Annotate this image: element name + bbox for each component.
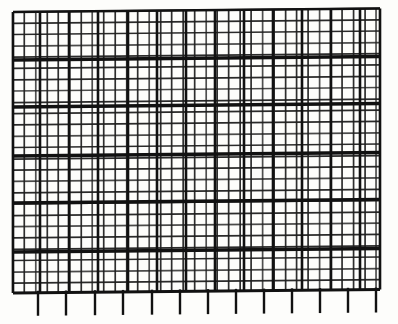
- grid-image-stage: Wire mesh grid scan: [0, 0, 398, 324]
- grid-top-rail: [13, 8, 380, 12]
- grid-mesh-drawing: [0, 0, 398, 324]
